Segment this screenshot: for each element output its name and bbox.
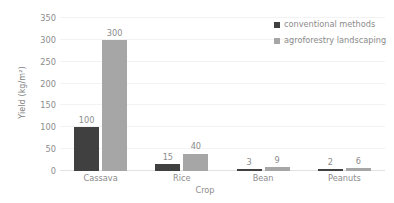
- legend-label: agroforestry landscaping: [284, 36, 386, 44]
- x-axis-category-label: Cassava: [60, 174, 141, 182]
- bar[interactable]: [74, 127, 99, 171]
- bar-value-label: 2: [328, 158, 333, 166]
- legend-swatch-icon: [274, 38, 280, 44]
- legend-label: conventional methods: [284, 20, 375, 28]
- bar[interactable]: [346, 168, 371, 171]
- bar-slot: 40: [183, 18, 208, 171]
- x-axis-title: Crop: [185, 186, 225, 194]
- bar[interactable]: [265, 167, 290, 171]
- y-axis-tick-label: 100: [26, 123, 56, 131]
- y-axis-tick-label: 200: [26, 80, 56, 88]
- bar-slot: 15: [155, 18, 180, 171]
- bar-chart: Yield (kg/m²) 050100150200250300350 1003…: [0, 0, 394, 203]
- bar-slot: 100: [74, 18, 99, 171]
- bar-value-label: 3: [247, 158, 252, 166]
- bar[interactable]: [102, 40, 127, 171]
- y-axis-tick-label: 150: [26, 101, 56, 109]
- bar-value-label: 9: [275, 156, 280, 164]
- bar-slot: 300: [102, 18, 127, 171]
- legend-item[interactable]: agroforestry landscaping: [274, 36, 392, 45]
- bar-slot: 3: [237, 18, 262, 171]
- bar[interactable]: [183, 154, 208, 171]
- bar-value-label: 15: [163, 153, 173, 161]
- bar-group: 1540: [141, 18, 222, 171]
- bar-value-label: 6: [356, 157, 361, 165]
- x-axis-category-label: Peanuts: [304, 174, 385, 182]
- y-axis-tick-label: 0: [26, 167, 56, 175]
- bar[interactable]: [318, 169, 343, 171]
- bar[interactable]: [237, 169, 262, 171]
- x-axis-category-label: Bean: [223, 174, 304, 182]
- x-axis-category-label: Rice: [141, 174, 222, 182]
- bar-group: 100300: [60, 18, 141, 171]
- bar-value-label: 300: [107, 29, 123, 37]
- y-axis-tick-label: 300: [26, 36, 56, 44]
- legend-item[interactable]: conventional methods: [274, 20, 392, 29]
- bar[interactable]: [155, 164, 180, 171]
- y-axis-tick-label: 50: [26, 145, 56, 153]
- bar-value-label: 40: [191, 142, 201, 150]
- y-axis-tick-labels: 050100150200250300350: [26, 0, 56, 203]
- bar-value-label: 100: [79, 116, 95, 124]
- chart-legend: conventional methodsagroforestry landsca…: [274, 20, 392, 52]
- y-axis-tick-label: 250: [26, 58, 56, 66]
- y-axis-tick-label: 350: [26, 14, 56, 22]
- legend-swatch-icon: [274, 22, 280, 28]
